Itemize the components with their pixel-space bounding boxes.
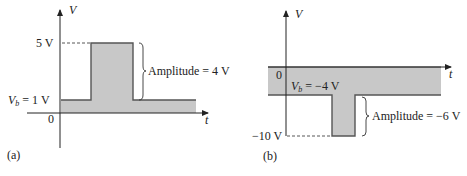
base-label-a: Vb = 1 V [8,93,50,108]
caption-b: (b) [263,149,277,163]
peak-label-a: 5 V [36,36,54,50]
x-axis-label-b: t [449,67,453,81]
peak-label-b: −10 V [252,129,283,143]
amplitude-label-a: Amplitude = 4 V [148,64,230,78]
base-label-b: Vb = −4 V [291,79,340,94]
amplitude-label-b: Amplitude = −6 V [372,109,461,123]
panel-a: V t 0 5 V Vb = 1 V Amplitude = 4 V (a) [7,3,230,162]
origin-label-b: 0 [276,68,282,82]
pulse-diagram: V t 0 5 V Vb = 1 V Amplitude = 4 V (a) V… [0,0,467,176]
amplitude-brace-a [139,43,146,100]
panel-b: V t 0 −10 V Vb = −4 V Amplitude = −6 V (… [252,7,461,163]
waveform-a-fill [61,43,196,113]
origin-label-a: 0 [48,112,54,126]
x-axis-label-a: t [205,113,209,127]
y-axis-label-b: V [295,7,304,21]
y-axis-label-a: V [69,3,78,17]
caption-a: (a) [7,148,20,162]
amplitude-brace-b [362,97,369,136]
